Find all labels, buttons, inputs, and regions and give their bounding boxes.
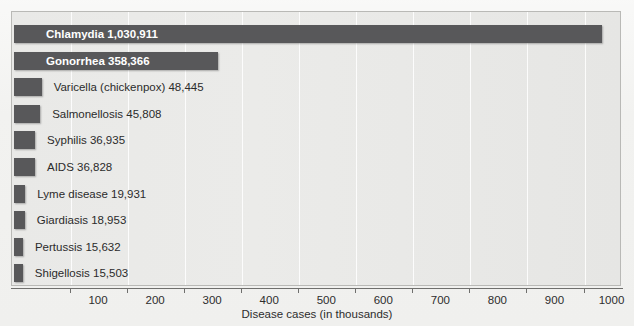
tick-label-100: 100: [78, 294, 118, 306]
tick-mark-900: [526, 288, 527, 293]
chart-page: Rate of New Cases of Reportable Diseases…: [0, 0, 634, 326]
tick-mark-600: [355, 288, 356, 293]
bar-row[interactable]: Shigellosis 15,503: [14, 264, 618, 282]
bar-row[interactable]: Lyme disease 19,931: [14, 185, 618, 203]
bar-value-label: Gonorrhea 358,366: [46, 52, 150, 70]
tick-mark-1000: [584, 288, 585, 293]
tick-label-200: 200: [135, 294, 175, 306]
bar-row[interactable]: Gonorrhea 358,366: [14, 52, 618, 70]
tick-mark-100: [70, 288, 71, 293]
tick-label-400: 400: [249, 294, 289, 306]
tick-mark-200: [127, 288, 128, 293]
bar-varicella-chickenpox[interactable]: [14, 78, 42, 96]
bar-value-label: Varicella (chickenpox) 48,445: [54, 78, 204, 96]
tick-mark-500: [298, 288, 299, 293]
tick-mark-300: [184, 288, 185, 293]
bar-value-label: Giardiasis 18,953: [37, 211, 127, 229]
tick-label-500: 500: [306, 294, 346, 306]
bar-row[interactable]: Pertussis 15,632: [14, 238, 618, 256]
bar-row[interactable]: Varicella (chickenpox) 48,445: [14, 78, 618, 96]
bar-row[interactable]: Syphilis 36,935: [14, 131, 618, 149]
bar-row[interactable]: Giardiasis 18,953: [14, 211, 618, 229]
bar-value-label: Pertussis 15,632: [35, 238, 121, 256]
bar-pertussis[interactable]: [14, 238, 23, 256]
plot-area: Chlamydia 1,030,911Gonorrhea 358,366Vari…: [11, 11, 621, 286]
tick-label-800: 800: [477, 294, 517, 306]
bar-series: Chlamydia 1,030,911Gonorrhea 358,366Vari…: [12, 12, 620, 285]
bar-value-label: Syphilis 36,935: [47, 131, 125, 149]
bar-value-label: Lyme disease 19,931: [37, 185, 146, 203]
bar-shigellosis[interactable]: [14, 264, 23, 282]
x-axis-title: Disease cases (in thousands): [0, 308, 634, 320]
tick-label-600: 600: [363, 294, 403, 306]
tick-label-700: 700: [420, 294, 460, 306]
tick-label-1000: 1000: [592, 294, 632, 306]
bar-syphilis[interactable]: [14, 131, 35, 149]
bar-row[interactable]: Chlamydia 1,030,911: [14, 25, 618, 43]
tick-mark-700: [412, 288, 413, 293]
tick-mark-400: [241, 288, 242, 293]
x-axis-line: [11, 288, 623, 289]
bar-giardiasis[interactable]: [14, 211, 25, 229]
bar-value-label: Salmonellosis 45,808: [52, 105, 161, 123]
tick-label-900: 900: [534, 294, 574, 306]
bar-aids[interactable]: [14, 158, 35, 176]
bar-value-label: Chlamydia 1,030,911: [46, 25, 158, 43]
bar-value-label: Shigellosis 15,503: [35, 264, 128, 282]
bar-value-label: AIDS 36,828: [47, 158, 112, 176]
bar-lyme-disease[interactable]: [14, 185, 25, 203]
bar-salmonellosis[interactable]: [14, 105, 40, 123]
tick-label-300: 300: [192, 294, 232, 306]
tick-mark-800: [469, 288, 470, 293]
bar-row[interactable]: AIDS 36,828: [14, 158, 618, 176]
bar-row[interactable]: Salmonellosis 45,808: [14, 105, 618, 123]
